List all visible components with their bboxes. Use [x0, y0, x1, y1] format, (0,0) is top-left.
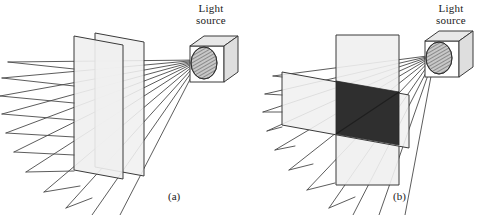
light-source-label-a: Light source	[181, 2, 241, 26]
panel-caption-a: (a)	[168, 190, 180, 202]
panel-a-diagram	[0, 0, 244, 215]
light-source-box-a	[188, 36, 238, 83]
filter-front-a	[74, 36, 123, 179]
light-source-label-b: Light source	[421, 2, 481, 26]
crossed-overlap-dark-region	[336, 81, 399, 145]
optics-figure: Light source (a)	[0, 0, 487, 215]
panel-a-parallel-filters: Light source (a)	[0, 0, 244, 215]
light-source-box-b	[423, 31, 473, 78]
panel-b-diagram	[243, 0, 487, 215]
panel-caption-b: (b)	[393, 190, 406, 202]
panel-b-crossed-filters: Light source (b)	[243, 0, 487, 215]
